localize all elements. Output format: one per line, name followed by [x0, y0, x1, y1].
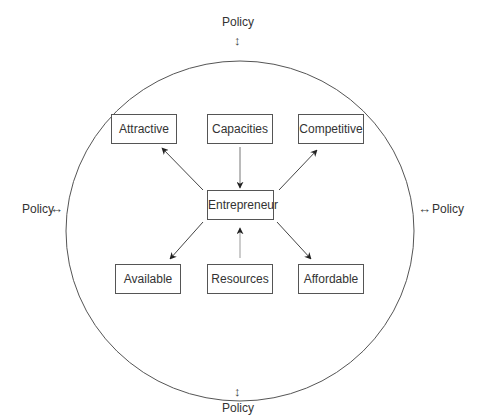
node-attractive: Attractive: [111, 114, 177, 144]
horizontal-double-arrow-icon: ↔: [50, 202, 63, 215]
node-entrepreneur: Entrepreneur: [207, 190, 274, 220]
arrow-entrepreneur-to-attractive: [162, 148, 203, 190]
node-competitive: Competitive: [298, 114, 364, 144]
arrow-entrepreneur-to-available: [170, 222, 203, 259]
arrow-entrepreneur-to-affordable: [277, 222, 311, 259]
vertical-double-arrow-icon: ↕: [234, 385, 241, 398]
node-resources: Resources: [207, 264, 273, 294]
arrow-entrepreneur-to-competitive: [279, 150, 317, 190]
horizontal-double-arrow-icon: ↔: [418, 202, 431, 215]
policy-label-right: Policy: [432, 202, 464, 216]
policy-label-bottom: Policy: [222, 401, 254, 415]
node-capacities: Capacities: [207, 114, 273, 144]
policy-label-top: Policy: [222, 15, 254, 29]
node-affordable: Affordable: [298, 264, 364, 294]
node-available: Available: [115, 264, 181, 294]
vertical-double-arrow-icon: ↕: [234, 34, 241, 47]
